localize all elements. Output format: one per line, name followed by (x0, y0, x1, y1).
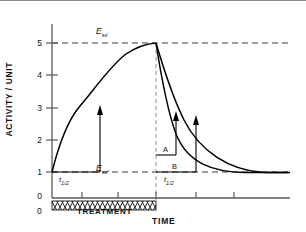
chart-canvas (0, 0, 306, 232)
bracket-a-label: A (163, 145, 168, 154)
x-axis-label: TIME (152, 216, 176, 226)
y-tick-label-4: 4 (30, 70, 42, 80)
t-half-rise-sub: 1/2 (61, 180, 69, 186)
bracket-b-arrowhead (193, 115, 199, 125)
ess-prime-label: Ess' (96, 26, 108, 38)
treatment-bar-label: TREATMENT (77, 207, 132, 216)
bracket-b-label: B (172, 162, 177, 171)
t-half-rise-label: t1/2 (59, 175, 69, 186)
y-tick-label-2: 2 (30, 135, 42, 145)
t-half-decay-sub: 1/2 (166, 180, 174, 186)
ess-zero-sub: ss° (102, 169, 110, 175)
y-tick-label-0: 0 (30, 191, 42, 201)
ess-zero-label: Ess° (96, 163, 109, 175)
t-half-rise-arrowhead (97, 105, 103, 115)
y-tick-label-3: 3 (30, 103, 42, 113)
y-tick-label-1: 1 (30, 167, 42, 177)
y-axis-label: ACTIVITY / UNIT (4, 62, 18, 137)
x-origin-label: 0 (37, 206, 42, 216)
bracket-a-arrowhead (173, 111, 179, 121)
figure-panel: ACTIVITY / UNIT TIME TREATMENT 5 4 3 2 1… (0, 0, 306, 232)
t-half-decay-label: t1/2 (164, 175, 174, 186)
curve-induction-rise (52, 43, 156, 172)
ess-prime-sub: ss' (102, 32, 109, 38)
y-tick-label-5: 5 (30, 38, 42, 48)
